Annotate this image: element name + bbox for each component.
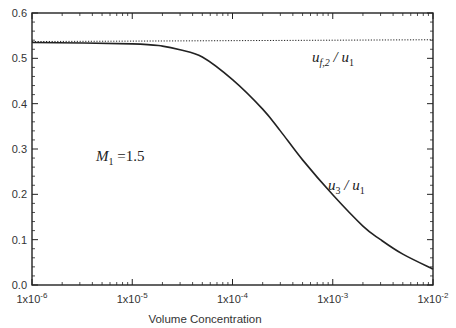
annotation-m1: M1 =1.5 bbox=[95, 148, 144, 167]
annotation-u3-u1: u3 / u1 bbox=[328, 177, 365, 196]
y-tick-label: 0.3 bbox=[12, 143, 27, 155]
series-line-uf2-u1 bbox=[32, 40, 433, 42]
y-tick-label: 0.0 bbox=[12, 279, 27, 291]
series bbox=[32, 40, 433, 269]
y-tick-label: 0.1 bbox=[12, 234, 27, 246]
series-line-u3-u1 bbox=[32, 42, 433, 269]
y-tick-label: 0.6 bbox=[12, 7, 27, 19]
y-tick-label: 0.2 bbox=[12, 188, 27, 200]
y-tick-label: 0.5 bbox=[12, 52, 27, 64]
plot-frame bbox=[32, 13, 433, 285]
x-tick-label: 1x10-2 bbox=[418, 291, 450, 305]
x-tick-label: 1x10-4 bbox=[217, 291, 249, 305]
chart: 0.00.10.20.30.40.50.6 1x10-61x10-51x10-4… bbox=[0, 0, 456, 328]
x-tick-label: 1x10-6 bbox=[17, 291, 49, 305]
x-tick-label: 1x10-3 bbox=[317, 291, 349, 305]
x-axis-title: Volume Concentration bbox=[148, 313, 261, 325]
x-tick-labels: 1x10-61x10-51x10-41x10-31x10-2 bbox=[17, 291, 450, 305]
y-tick-label: 0.4 bbox=[12, 98, 27, 110]
y-tick-labels: 0.00.10.20.30.40.50.6 bbox=[12, 7, 27, 291]
x-tick-label: 1x10-5 bbox=[117, 291, 149, 305]
annotation-uf2-u1: uf,2 / u1 bbox=[312, 49, 354, 68]
ticks bbox=[32, 13, 433, 285]
